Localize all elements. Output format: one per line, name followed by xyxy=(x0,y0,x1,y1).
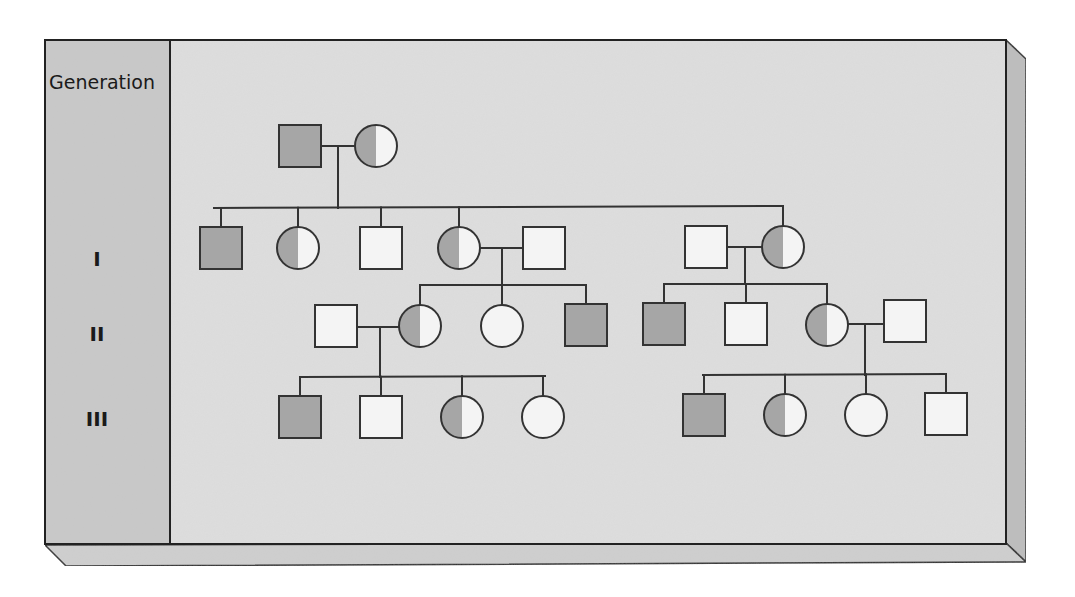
male-unaffected-symbol xyxy=(725,303,767,345)
square-icon xyxy=(279,396,321,438)
panel-right-bevel xyxy=(1006,40,1026,562)
square-icon xyxy=(643,303,685,345)
square-icon xyxy=(685,226,727,268)
female-unaffected-symbol xyxy=(522,396,564,438)
male-affected-symbol xyxy=(279,125,321,167)
generation-label-III: III xyxy=(86,407,108,431)
generation-label-I: I xyxy=(93,247,100,271)
generation-label-II: II xyxy=(90,322,105,346)
square-icon xyxy=(279,125,321,167)
male-unaffected-symbol xyxy=(925,393,967,435)
male-unaffected-symbol xyxy=(884,300,926,342)
male-unaffected-symbol xyxy=(360,227,402,269)
male-affected-symbol xyxy=(565,304,607,346)
male-affected-symbol xyxy=(200,227,242,269)
male-unaffected-symbol xyxy=(523,227,565,269)
circle-icon xyxy=(845,394,887,436)
sibship-line xyxy=(703,374,946,375)
female-carrier-symbol xyxy=(806,304,848,346)
pedigree-panel xyxy=(170,40,1006,544)
female-carrier-symbol xyxy=(399,305,441,347)
female-carrier-symbol xyxy=(764,394,806,436)
sibship-line xyxy=(300,376,545,377)
square-icon xyxy=(725,303,767,345)
generation-column xyxy=(45,40,170,545)
square-icon xyxy=(315,305,357,347)
male-affected-symbol xyxy=(683,394,725,436)
male-affected-symbol xyxy=(643,303,685,345)
pedigree-figure: Generation I II III xyxy=(0,0,1075,597)
panel-bottom-bevel xyxy=(45,543,1026,566)
square-icon xyxy=(884,300,926,342)
female-carrier-symbol xyxy=(762,226,804,268)
square-icon xyxy=(360,227,402,269)
male-unaffected-symbol xyxy=(360,396,402,438)
square-icon xyxy=(360,396,402,438)
male-affected-symbol xyxy=(279,396,321,438)
square-icon xyxy=(523,227,565,269)
female-carrier-symbol xyxy=(355,125,397,167)
square-icon xyxy=(925,393,967,435)
square-icon xyxy=(683,394,725,436)
female-carrier-symbol xyxy=(438,227,480,269)
square-icon xyxy=(200,227,242,269)
generation-header: Generation xyxy=(49,71,155,93)
circle-icon xyxy=(522,396,564,438)
circle-icon xyxy=(481,305,523,347)
panel-frame xyxy=(45,40,1026,566)
male-unaffected-symbol xyxy=(315,305,357,347)
female-carrier-symbol xyxy=(441,396,483,438)
square-icon xyxy=(565,304,607,346)
female-unaffected-symbol xyxy=(481,305,523,347)
female-carrier-symbol xyxy=(277,227,319,269)
female-unaffected-symbol xyxy=(845,394,887,436)
male-unaffected-symbol xyxy=(685,226,727,268)
